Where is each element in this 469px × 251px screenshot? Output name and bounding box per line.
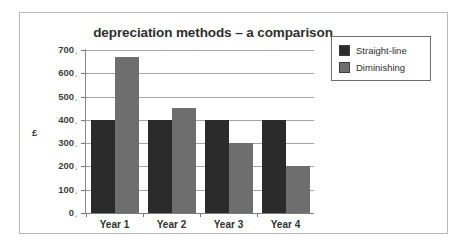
bar-straight-line-year-3 bbox=[205, 120, 229, 213]
x-tick-mark bbox=[257, 213, 258, 217]
legend-label: Diminishing bbox=[356, 62, 405, 73]
bar-group bbox=[148, 50, 196, 213]
chart-figure: depreciation methods – a comparison £ 0.… bbox=[19, 12, 448, 234]
y-tick-label: 100 bbox=[40, 184, 74, 195]
x-tick-mark bbox=[143, 213, 144, 217]
bar-straight-line-year-2 bbox=[148, 120, 172, 213]
legend-item: Diminishing bbox=[339, 59, 430, 76]
y-tick-label: 0 bbox=[40, 207, 74, 218]
y-tick-dot: . bbox=[75, 185, 78, 196]
plot-area bbox=[86, 50, 314, 213]
y-tick-dot: . bbox=[75, 115, 78, 126]
y-tick-label: 700 bbox=[40, 44, 74, 55]
chart-title: depreciation methods – a comparison bbox=[78, 25, 348, 40]
bar-diminishing-year-3 bbox=[229, 143, 253, 213]
y-tick-dot: . bbox=[75, 45, 78, 56]
bar-straight-line-year-4 bbox=[262, 120, 286, 213]
legend-item: Straight-line bbox=[339, 42, 430, 59]
legend-swatch bbox=[339, 45, 350, 56]
bar-diminishing-year-1 bbox=[115, 57, 139, 213]
y-tick-dot: . bbox=[75, 208, 78, 219]
x-category-label: Year 2 bbox=[143, 219, 200, 230]
legend-swatch bbox=[339, 62, 350, 73]
y-tick-dot: . bbox=[75, 92, 78, 103]
x-category-label: Year 4 bbox=[257, 219, 314, 230]
y-tick-dot: . bbox=[75, 68, 78, 79]
bar-group bbox=[91, 50, 139, 213]
y-tick-label: 600 bbox=[40, 67, 74, 78]
x-category-label: Year 1 bbox=[86, 219, 143, 230]
bar-diminishing-year-2 bbox=[172, 108, 196, 213]
y-tick-label: 200 bbox=[40, 160, 74, 171]
y-tick-dot: . bbox=[75, 161, 78, 172]
y-tick-dot: . bbox=[75, 138, 78, 149]
bar-group bbox=[262, 50, 310, 213]
legend-label: Straight-line bbox=[356, 45, 407, 56]
bar-group bbox=[205, 50, 253, 213]
y-tick-label: 400 bbox=[40, 114, 74, 125]
x-tick-mark bbox=[200, 213, 201, 217]
bar-diminishing-year-4 bbox=[286, 166, 310, 213]
y-axis-title: £ bbox=[32, 127, 37, 138]
chart-legend: Straight-lineDiminishing bbox=[331, 36, 431, 81]
x-category-label: Year 3 bbox=[200, 219, 257, 230]
y-tick-label: 500 bbox=[40, 91, 74, 102]
x-tick-mark bbox=[86, 213, 87, 217]
bar-straight-line-year-1 bbox=[91, 120, 115, 213]
y-tick-label: 300 bbox=[40, 137, 74, 148]
